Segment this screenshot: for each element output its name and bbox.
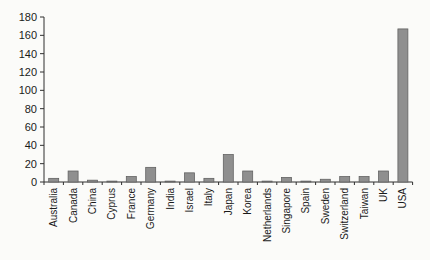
bar-usa (398, 29, 408, 182)
x-axis-label-sweden: Sweden (320, 188, 331, 224)
x-axis-label-usa: USA (397, 188, 408, 209)
bar-sweden (320, 179, 330, 182)
y-tick-label: 180 (19, 11, 37, 23)
y-tick-label: 60 (25, 121, 37, 133)
chart-svg: 020406080100120140160180AustraliaCanadaC… (0, 0, 430, 260)
x-axis-label-japan: Japan (223, 188, 234, 215)
x-axis-label-china: China (87, 188, 98, 215)
x-axis-label-germany: Germany (145, 188, 156, 229)
bar-korea (243, 171, 253, 182)
bar-netherlands (262, 181, 272, 182)
x-axis-label-france: France (126, 188, 137, 220)
bar-india (165, 181, 175, 182)
bar-singapore (282, 177, 292, 182)
x-axis-label-australia: Australia (48, 188, 59, 227)
bar-canada (68, 171, 78, 182)
y-tick-label: 80 (25, 103, 37, 115)
x-axis-label-uk: UK (378, 188, 389, 202)
y-tick-label: 20 (25, 158, 37, 170)
x-axis-label-switzerland: Switzerland (339, 188, 350, 240)
x-axis-label-taiwan: Taiwan (359, 188, 370, 219)
y-tick-label: 140 (19, 48, 37, 60)
bar-australia (49, 178, 59, 182)
y-tick-label: 160 (19, 29, 37, 41)
bar-france (126, 177, 136, 183)
x-axis-label-india: India (165, 188, 176, 210)
x-axis-label-canada: Canada (68, 188, 79, 223)
x-axis-label-italy: Italy (203, 188, 214, 206)
bar-chart-figure: 020406080100120140160180AustraliaCanadaC… (0, 0, 430, 260)
x-axis-label-cyprus: Cyprus (106, 188, 117, 220)
bar-japan (223, 155, 233, 183)
bar-china (88, 180, 98, 182)
bar-cyprus (107, 181, 117, 182)
y-tick-label: 100 (19, 84, 37, 96)
x-axis-label-korea: Korea (242, 188, 253, 215)
bar-israel (185, 173, 195, 182)
x-axis-label-israel: Israel (184, 188, 195, 212)
bar-italy (204, 178, 214, 182)
bar-switzerland (340, 177, 350, 183)
x-axis-label-spain: Spain (300, 188, 311, 214)
x-axis-label-singapore: Singapore (281, 188, 292, 234)
bar-germany (146, 167, 156, 182)
bar-uk (379, 171, 389, 182)
y-tick-label: 0 (31, 176, 37, 188)
y-tick-label: 40 (25, 139, 37, 151)
bar-taiwan (359, 177, 369, 183)
bar-spain (301, 181, 311, 182)
x-axis-label-netherlands: Netherlands (262, 188, 273, 242)
y-tick-label: 120 (19, 66, 37, 78)
